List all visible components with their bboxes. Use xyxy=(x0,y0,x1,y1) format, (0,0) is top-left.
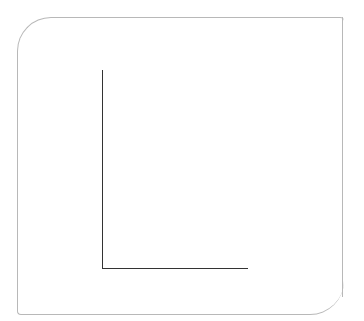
figure-frame-edge xyxy=(342,17,343,297)
y-axis xyxy=(102,70,103,269)
figure-frame xyxy=(17,17,344,315)
x-axis xyxy=(102,268,248,269)
